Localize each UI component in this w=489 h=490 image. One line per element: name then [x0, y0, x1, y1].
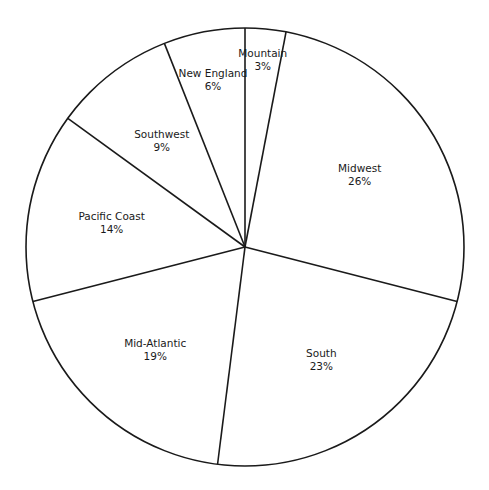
slice-label: South23%	[306, 347, 337, 372]
pie-chart: Mountain3%Midwest26%South23%Mid-Atlantic…	[0, 0, 489, 490]
